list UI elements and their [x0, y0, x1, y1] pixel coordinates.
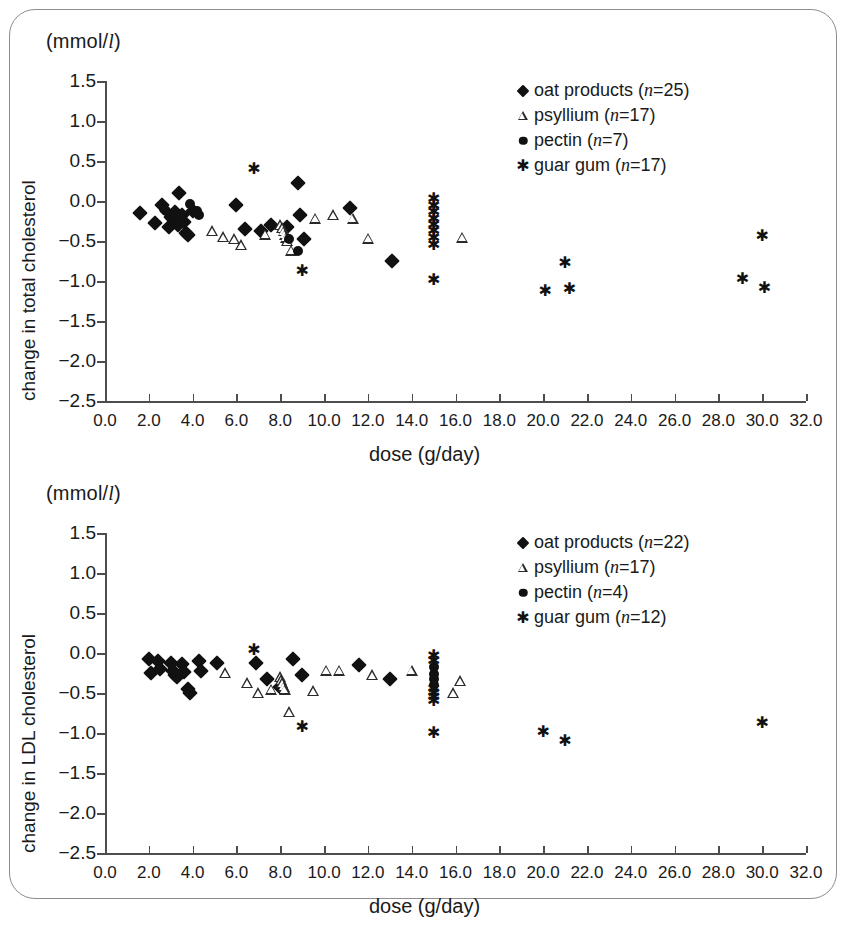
legend-item-psyllium: psyllium (n=17) [512, 555, 690, 580]
marker-guar-gum: ✱ [427, 685, 440, 693]
marker-guar-gum: ✱ [427, 208, 440, 216]
marker-guar-gum: ✱ [539, 287, 552, 295]
legend-item-guar-gum: ✱guar gum (n=17) [512, 153, 690, 178]
series-guar-gum: ✱✱✱✱✱✱✱✱✱✱✱✱ [0, 470, 849, 910]
series-guar-gum: ✱✱✱✱✱✱✱✱✱✱✱✱✱✱✱✱✱ [0, 18, 849, 458]
pectin-icon [512, 583, 534, 603]
marker-guar-gum: ✱ [427, 195, 440, 203]
legend-item-psyllium: psyllium (n=17) [512, 103, 690, 128]
marker-guar-gum: ✱ [427, 693, 440, 701]
legend-item-pectin: pectin (n=7) [512, 128, 690, 153]
marker-pectin [519, 136, 528, 145]
marker-guar-gum: ✱ [427, 215, 440, 223]
legend-label: pectin (n=7) [534, 128, 629, 153]
marker-guar-gum: ✱ [536, 728, 549, 736]
legend-label: oat products (n=22) [534, 530, 690, 555]
marker-guar-gum: ✱ [755, 232, 768, 240]
legend-label: psyllium (n=17) [534, 555, 656, 580]
plot-area-total-cholesterol: (mmol/l)change in total cholesteroldose … [0, 18, 849, 458]
legend-item-oat-products: oat products (n=22) [512, 530, 690, 555]
marker-guar-gum: ✱ [427, 689, 440, 697]
marker-psyllium [518, 563, 528, 572]
panel-total-cholesterol: (mmol/l)change in total cholesteroldose … [0, 18, 849, 458]
marker-guar-gum: ✱ [427, 657, 440, 665]
guar-gum-icon: ✱ [512, 156, 534, 176]
marker-guar-gum: ✱ [516, 614, 529, 622]
marker-guar-gum: ✱ [427, 276, 440, 284]
marker-guar-gum: ✱ [247, 165, 260, 173]
oat-products-icon [512, 81, 534, 101]
marker-guar-gum: ✱ [563, 285, 576, 293]
marker-oat-products [517, 84, 530, 97]
panel-ldl-cholesterol: (mmol/l)change in LDL cholesteroldose (g… [0, 470, 849, 910]
marker-guar-gum: ✱ [295, 723, 308, 731]
marker-guar-gum: ✱ [427, 697, 440, 705]
marker-guar-gum: ✱ [758, 284, 771, 292]
marker-guar-gum: ✱ [736, 275, 749, 283]
marker-guar-gum: ✱ [427, 227, 440, 235]
legend-label: guar gum (n=17) [534, 153, 667, 178]
marker-guar-gum: ✱ [427, 652, 440, 660]
plot-area-ldl-cholesterol: (mmol/l)change in LDL cholesteroldose (g… [0, 470, 849, 910]
marker-guar-gum: ✱ [427, 202, 440, 210]
legend: oat products (n=22)psyllium (n=17)pectin… [512, 530, 690, 630]
marker-psyllium [518, 111, 528, 120]
legend-item-guar-gum: ✱guar gum (n=12) [512, 605, 690, 630]
marker-guar-gum: ✱ [558, 259, 571, 267]
marker-pectin [519, 588, 528, 597]
marker-guar-gum: ✱ [427, 221, 440, 229]
marker-guar-gum: ✱ [427, 241, 440, 249]
pectin-icon [512, 131, 534, 151]
psyllium-icon [512, 106, 534, 126]
marker-guar-gum: ✱ [516, 162, 529, 170]
legend-label: psyllium (n=17) [534, 103, 656, 128]
legend-label: pectin (n=4) [534, 580, 629, 605]
marker-guar-gum: ✱ [427, 729, 440, 737]
legend-item-pectin: pectin (n=4) [512, 580, 690, 605]
guar-gum-icon: ✱ [512, 608, 534, 628]
legend-item-oat-products: oat products (n=25) [512, 78, 690, 103]
marker-guar-gum: ✱ [427, 234, 440, 242]
legend-label: oat products (n=25) [534, 78, 690, 103]
marker-guar-gum: ✱ [247, 646, 260, 654]
legend-label: guar gum (n=12) [534, 605, 667, 630]
marker-guar-gum: ✱ [558, 737, 571, 745]
oat-products-icon [512, 533, 534, 553]
marker-guar-gum: ✱ [755, 719, 768, 727]
psyllium-icon [512, 558, 534, 578]
marker-oat-products [517, 536, 530, 549]
legend: oat products (n=25)psyllium (n=17)pectin… [512, 78, 690, 178]
marker-guar-gum: ✱ [295, 267, 308, 275]
